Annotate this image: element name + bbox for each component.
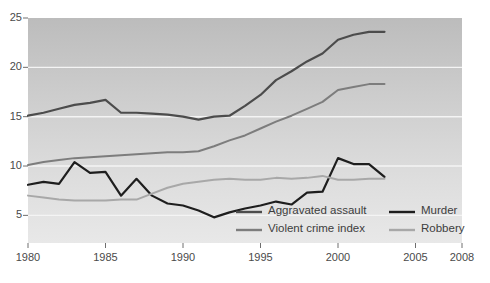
- legend-label: Murder: [421, 204, 457, 216]
- x-tick-label: 2000: [316, 251, 360, 263]
- y-tick-label: 5: [0, 208, 22, 220]
- legend-label: Aggravated assault: [268, 204, 366, 216]
- y-tick-label: 25: [0, 11, 22, 23]
- x-tick-label: 1990: [161, 251, 205, 263]
- x-axis-ticks: [28, 243, 462, 248]
- y-tick-label: 15: [0, 110, 22, 122]
- y-tick-label: 10: [0, 159, 22, 171]
- line-chart-plot: [0, 0, 490, 283]
- y-tick-label: 20: [0, 60, 22, 72]
- x-tick-label: 2008: [440, 251, 484, 263]
- x-tick-label: 2005: [394, 251, 438, 263]
- legend-label: Robbery: [421, 222, 464, 234]
- legend-label: Violent crime index: [268, 222, 365, 234]
- x-tick-label: 1995: [239, 251, 283, 263]
- chart-figure: 510152025 1980198519901995200020052008 A…: [0, 0, 490, 283]
- x-tick-label: 1980: [6, 251, 50, 263]
- y-axis-ticks: [23, 18, 28, 215]
- x-tick-label: 1985: [84, 251, 128, 263]
